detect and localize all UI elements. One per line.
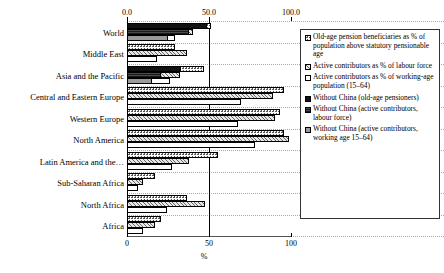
- x-axis-bottom-tick-100: 100: [271, 239, 311, 248]
- plot-area: [127, 21, 291, 236]
- legend-item-1[interactable]: Active contributors as % of labour force: [305, 62, 436, 71]
- bar-3-s2: [127, 99, 241, 105]
- legend-item-5[interactable]: Without China (active contributors, work…: [305, 125, 436, 142]
- category-label-5: North America: [4, 135, 127, 145]
- legend-swatch-icon-5: [305, 127, 311, 133]
- bar-9-s1: [127, 222, 155, 228]
- bar-6-s2: [127, 164, 172, 170]
- bar-1-s2: [127, 56, 157, 62]
- legend-label-5: Without China (active contributors, work…: [313, 125, 436, 142]
- bar-9-s0: [127, 216, 161, 222]
- category-label-0: World: [4, 28, 127, 38]
- chart-legend: Old-age pension beneficiaries as % of po…: [300, 29, 440, 219]
- x-axis-bottom-tick-50: 50: [189, 239, 229, 248]
- bar-3-s0: [127, 87, 284, 93]
- category-label-4: Western Europe: [4, 114, 127, 124]
- tick-bottom-100: [291, 233, 292, 237]
- category-label-8: North Africa: [4, 200, 127, 210]
- bar-3-s1: [127, 93, 273, 99]
- bar-5-s0: [127, 130, 284, 136]
- legend-label-2: Active contributors as % of working-age …: [313, 73, 436, 90]
- legend-swatch-icon-3: [305, 96, 311, 102]
- bar-2-s5: [127, 78, 152, 84]
- legend-swatch-icon-1: [305, 64, 311, 70]
- bar-8-s2: [127, 207, 167, 213]
- category-label-1: Middle East: [4, 49, 127, 59]
- bar-7-s0: [127, 173, 155, 179]
- legend-label-1: Active contributors as % of labour force: [313, 62, 432, 71]
- legend-item-0[interactable]: Old-age pension beneficiaries as % of po…: [305, 33, 436, 59]
- bar-0-s3: [127, 23, 207, 29]
- legend-item-2[interactable]: Active contributors as % of working-age …: [305, 73, 436, 90]
- legend-swatch-icon-2: [305, 75, 311, 81]
- bar-0-s5: [127, 35, 168, 41]
- legend-swatch-icon-4: [305, 107, 311, 113]
- bar-7-s1: [127, 179, 143, 185]
- bar-4-s1: [127, 115, 275, 121]
- category-label-6: Latin America and the…: [4, 157, 127, 167]
- bar-8-s1: [127, 201, 205, 207]
- bar-8-s0: [127, 195, 187, 201]
- bar-2-s3: [127, 66, 181, 72]
- x-axis-top-tick-50: 50.0: [189, 8, 229, 17]
- legend-item-4[interactable]: Without China (active contributors, labo…: [305, 105, 436, 122]
- bar-6-s0: [127, 152, 218, 158]
- bar-9-s2: [127, 228, 143, 234]
- legend-swatch-icon-0: [305, 35, 311, 41]
- bar-0-s4: [127, 29, 189, 35]
- bar-1-s0: [127, 44, 175, 50]
- legend-label-3: Without China (old-age pensioners): [313, 94, 419, 103]
- x-axis-bottom-tick-0: 0: [107, 239, 147, 248]
- y-axis-category-labels: WorldMiddle EastAsia and the PacificCent…: [0, 0, 127, 273]
- x-axis-unit-text: %: [201, 252, 208, 261]
- bar-5-s1: [127, 136, 289, 142]
- chart-container: 0.0 50.0 100.0 WorldMiddle EastAsia and …: [0, 0, 444, 273]
- bar-4-s0: [127, 109, 280, 115]
- tick-top-100: [291, 17, 292, 21]
- x-axis-top-tick-100: 100.0: [271, 8, 311, 17]
- bar-1-s1: [127, 50, 187, 56]
- legend-label-4: Without China (active contributors, labo…: [313, 105, 436, 122]
- x-axis-unit-label: %: [0, 252, 444, 261]
- bar-6-s1: [127, 158, 189, 164]
- bar-5-s2: [127, 142, 255, 148]
- legend-label-0: Old-age pension beneficiaries as % of po…: [313, 33, 436, 59]
- category-label-9: Africa: [4, 221, 127, 231]
- category-label-3: Central and Eastern Europe: [4, 92, 127, 102]
- legend-item-3[interactable]: Without China (old-age pensioners): [305, 94, 436, 103]
- category-label-7: Sub-Saharan Africa: [4, 178, 127, 188]
- bar-7-s2: [127, 185, 138, 191]
- category-label-2: Asia and the Pacific: [4, 71, 127, 81]
- bar-4-s2: [127, 121, 238, 127]
- bar-2-s4: [127, 72, 161, 78]
